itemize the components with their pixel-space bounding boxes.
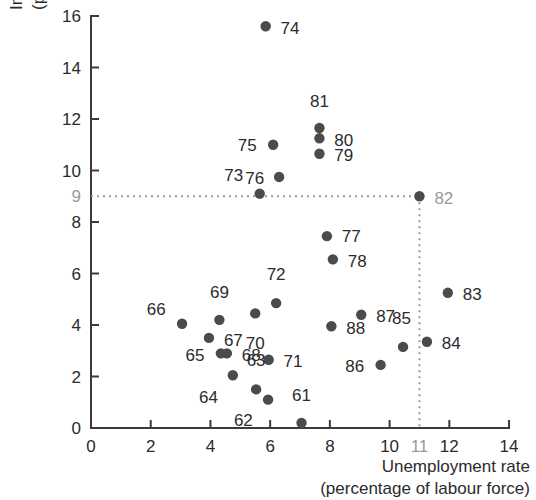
x-axis-highlight-tick-label: 11 [411,437,429,456]
data-point [263,394,273,404]
x-axis-tick-label: 10 [380,437,399,456]
tick-labels-group: 024681012141690246810121411 [62,7,518,456]
scatter-chart: 024681012141690246810121411 616263646566… [0,0,536,500]
y-axis-tick-label: 14 [62,59,81,78]
data-point-label: 70 [246,334,265,353]
data-point [314,149,324,159]
data-point-label: 82 [434,189,453,208]
y-axis-tick-label: 4 [72,316,81,335]
data-point [255,188,265,198]
data-point [274,172,284,182]
data-point [250,308,260,318]
data-point-labels-group: 6162636465666768697071727374757677787980… [147,19,482,430]
data-point [375,360,385,370]
data-point [326,321,336,331]
x-axis-tick-label: 8 [325,437,334,456]
data-point [398,342,408,352]
data-points-group [177,21,453,428]
x-axis-tick-label: 12 [440,437,459,456]
data-point-label: 88 [346,319,365,338]
data-point-label: 61 [292,386,311,405]
data-point-label: 81 [310,92,329,111]
y-axis-tick-label: 2 [72,368,81,387]
y-axis-tick-label: 6 [72,265,81,284]
x-axis-tick-label: 0 [86,437,95,456]
plot-canvas: 024681012141690246810121411 616263646566… [0,0,536,500]
y-axis-tick-label: 8 [72,213,81,232]
data-point-label: 69 [210,283,229,302]
axis-titles-group: Unemployment rate(percentage of labour f… [7,0,530,498]
y-axis-tick-label: 0 [72,419,81,438]
data-point [214,315,224,325]
x-axis-tick-label: 6 [265,437,274,456]
data-point-label: 71 [284,352,303,371]
data-point-label: 87 [376,307,395,326]
data-point [314,133,324,143]
y-axis-tick-label: 12 [62,110,81,129]
data-point-label: 75 [238,136,257,155]
data-point [228,370,238,380]
data-point [414,191,424,201]
data-point [443,288,453,298]
y-axis-title-line1: Inflation rate [7,0,26,10]
y-axis-title-line2: (percent per year) [29,0,48,10]
data-point-label: 73 [224,166,243,185]
y-axis-tick-label: 16 [62,7,81,26]
x-axis-title-line2: (percentage of labour force) [320,479,530,498]
y-axis-tick-label: 10 [62,162,81,181]
data-point-label: 64 [199,388,218,407]
data-point-label: 77 [342,227,361,246]
x-axis-tick-label: 4 [206,437,215,456]
data-point [296,418,306,428]
data-point-label: 86 [345,357,364,376]
data-point [314,123,324,133]
data-point [422,337,432,347]
data-point [251,384,261,394]
y-axis-highlight-tick-label: 9 [72,187,81,206]
data-point [268,140,278,150]
data-point [328,254,338,264]
data-point-label: 74 [281,19,300,38]
data-point [271,298,281,308]
data-point-label: 83 [463,285,482,304]
data-point [177,319,187,329]
x-axis-tick-label: 14 [500,437,519,456]
data-point-label: 65 [186,346,205,365]
data-point-label: 80 [334,131,353,150]
data-point [260,21,270,31]
data-point-label: 62 [234,411,253,430]
data-point-label: 72 [267,265,286,284]
x-axis-tick-label: 2 [146,437,155,456]
data-point-label: 67 [224,331,243,350]
data-point-label: 66 [147,300,166,319]
data-point [322,231,332,241]
x-axis-title-line1: Unemployment rate [382,457,530,476]
data-point-label: 76 [245,169,264,188]
data-point-label: 78 [348,252,367,271]
data-point [204,333,214,343]
data-point-label: 84 [442,334,461,353]
